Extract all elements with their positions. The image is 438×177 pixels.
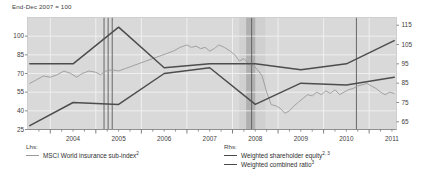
legend-label: Weighted shareholder equity2, 3 <box>241 151 330 159</box>
legend-lhs-header: Lhs: <box>26 143 38 150</box>
x-axis-tick-label-2004: 2004 <box>59 135 87 142</box>
legend-rhs-header: Rhs: <box>224 143 237 150</box>
legend-footnote-marker: 2, 3 <box>322 151 330 156</box>
legend-line-swatch <box>224 155 237 156</box>
left-axis-tick-label-25: 25 <box>4 126 24 133</box>
legend-footnote-marker: 3 <box>312 160 315 165</box>
legend-label: MSCI World insurance sub-index2 <box>43 151 139 159</box>
x-axis-tick-label-2005: 2005 <box>105 135 133 142</box>
x-axis-tick-label-2011: 2011 <box>378 135 406 142</box>
left-axis-tick-label-40: 40 <box>4 107 24 114</box>
x-axis-tick-label-2008: 2008 <box>241 135 269 142</box>
x-axis-tick-label-2010: 2010 <box>332 135 360 142</box>
legend-weighted-combined-ratio[interactable]: Weighted combined ratio3 <box>224 160 314 168</box>
right-axis-tick-label-85: 85 <box>402 79 424 86</box>
x-axis-tick-label-2006: 2006 <box>150 135 178 142</box>
legend-line-swatch <box>26 155 39 156</box>
left-axis-tick-label-70: 70 <box>4 70 24 77</box>
legend-msci-world-insurance-sub-index[interactable]: MSCI World insurance sub-index2 <box>26 151 139 159</box>
chart-caption: End-Dec 2007 = 100 <box>12 3 72 10</box>
right-axis-tick-label-95: 95 <box>402 60 424 67</box>
x-axis-tick-label-2007: 2007 <box>196 135 224 142</box>
left-axis-tick-label-85: 85 <box>4 51 24 58</box>
legend-label: Weighted combined ratio3 <box>241 160 314 168</box>
chart-container: End-Dec 2007 = 100 2540557085100 6575859… <box>0 0 438 177</box>
right-axis-tick-label-75: 75 <box>402 99 424 106</box>
x-axis-tick-label-2009: 2009 <box>287 135 315 142</box>
right-axis-tick-label-115: 115 <box>402 21 424 28</box>
left-axis-tick-label-100: 100 <box>4 32 24 39</box>
legend-weighted-shareholder-equity[interactable]: Weighted shareholder equity2, 3 <box>224 151 330 159</box>
legend-line-swatch <box>224 164 237 165</box>
left-axis-tick-label-55: 55 <box>4 88 24 95</box>
legend-footnote-marker: 2 <box>136 151 139 156</box>
right-axis-tick-label-65: 65 <box>402 118 424 125</box>
right-axis-tick-label-105: 105 <box>402 41 424 48</box>
